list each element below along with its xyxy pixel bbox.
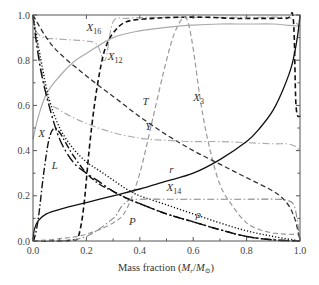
label-r: r [169, 163, 174, 175]
label-x16: X16 [85, 21, 101, 36]
curves-layer [33, 13, 300, 242]
label-l: L [51, 159, 58, 171]
label-x12: X12 [107, 50, 123, 65]
y-tick-label: 0.4 [18, 145, 31, 156]
curve-x3 [33, 17, 300, 241]
curve-x [33, 24, 300, 139]
x-tick-label: 1.0 [294, 245, 307, 256]
y-tick-label: 0.8 [18, 55, 31, 66]
y-tick-label: 0.2 [18, 190, 31, 201]
curve-r [33, 15, 300, 241]
x-tick-label: 0.0 [27, 245, 40, 256]
label-x14: X14 [166, 181, 182, 196]
curve-labels: X16X12X3TYXLPρX14r [37, 21, 204, 227]
x-tick-label: 0.4 [134, 245, 147, 256]
y-tick-label: 0.6 [18, 100, 31, 111]
chart: X16X12X3TYXLPρX14r 0.00.20.40.60.81.00.0… [0, 0, 319, 285]
x-tick-label: 0.6 [187, 245, 200, 256]
y-tick-label: 1.0 [18, 10, 31, 21]
axis-ticks: 0.00.20.40.60.81.00.00.20.40.60.81.0 [18, 10, 307, 257]
x-tick-label: 0.2 [80, 245, 93, 256]
label-x3: X3 [192, 91, 204, 106]
label-t: T [142, 95, 149, 107]
label-rho: ρ [195, 208, 201, 220]
label-p: P [128, 215, 136, 227]
y-tick-label: 0.0 [18, 236, 31, 247]
x-axis-title: Mass fraction (Mr/M⊙) [118, 262, 215, 275]
x-tick-label: 0.8 [240, 245, 253, 256]
curve-y [33, 15, 300, 151]
label-x: X [37, 127, 46, 139]
